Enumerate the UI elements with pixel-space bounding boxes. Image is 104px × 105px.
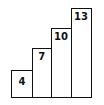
bar-label: 7 (33, 51, 52, 62)
bar-7: 7 (32, 48, 53, 98)
bar-10: 10 (51, 28, 72, 98)
bar-label: 10 (52, 31, 71, 42)
bar-4: 4 (11, 70, 33, 98)
bar-13: 13 (71, 8, 92, 98)
bar-label: 4 (12, 76, 32, 87)
bar-label: 13 (72, 11, 91, 22)
